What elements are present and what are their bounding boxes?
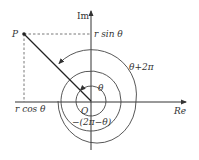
r-sin-theta-label: r sin θ (94, 29, 123, 39)
negative-angle-label: −(2π−θ) (72, 117, 112, 127)
angle-theta-plus-2pi-arc (59, 50, 136, 101)
imag-axis-label: Im (77, 11, 90, 21)
diagram-svg: Im Re P r sin θ r cos θ O θ θ+2π −(2π−θ) (0, 0, 199, 160)
middle-arc-upper (70, 71, 121, 101)
theta-plus-2pi-label: θ+2π (129, 62, 155, 72)
theta-label: θ (98, 83, 104, 93)
origin-label: O (81, 106, 89, 116)
r-cos-theta-label: r cos θ (15, 104, 46, 114)
complex-plane-diagram: Im Re P r sin θ r cos θ O θ θ+2π −(2π−θ) (0, 0, 199, 160)
point-p-dot (22, 32, 26, 36)
ray-op (24, 34, 91, 101)
point-p-label: P (11, 29, 19, 39)
real-axis-label: Re (173, 106, 186, 116)
